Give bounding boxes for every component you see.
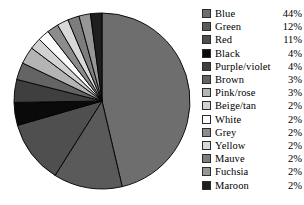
legend-item-label: Beige/tan — [215, 100, 278, 111]
legend-item-value: 2% — [278, 100, 302, 111]
legend-swatch-icon — [202, 141, 211, 150]
legend-swatch-icon — [202, 181, 211, 190]
legend-item-label: Fuchsia — [215, 166, 278, 177]
legend-swatch-icon — [202, 88, 211, 97]
legend-item-label: Blue — [215, 8, 278, 19]
legend-item[interactable]: Blue44% — [202, 7, 302, 20]
legend-item[interactable]: Green12% — [202, 20, 302, 33]
legend-item-value: 2% — [278, 114, 302, 125]
legend-swatch-icon — [202, 128, 211, 137]
legend-item-label: Maroon — [215, 180, 278, 191]
legend-item[interactable]: Beige/tan2% — [202, 99, 302, 112]
legend-item-label: Brown — [215, 74, 278, 85]
legend-item-value: 2% — [278, 127, 302, 138]
legend-item-label: Green — [215, 21, 278, 32]
legend-swatch-icon — [202, 115, 211, 124]
legend-item[interactable]: Pink/rose3% — [202, 86, 302, 99]
legend-item[interactable]: Red11% — [202, 33, 302, 46]
legend-item[interactable]: Grey2% — [202, 126, 302, 139]
legend-item[interactable]: Yellow2% — [202, 139, 302, 152]
legend-item-label: Red — [215, 34, 278, 45]
legend-item-value: 2% — [278, 140, 302, 151]
legend-item-label: White — [215, 114, 278, 125]
legend-swatch-icon — [202, 9, 211, 18]
legend-item-label: Mauve — [215, 153, 278, 164]
legend-item-value: 2% — [278, 153, 302, 164]
legend-item-label: Pink/rose — [215, 87, 278, 98]
pie-chart-area — [0, 0, 200, 205]
legend-item-value: 3% — [278, 74, 302, 85]
legend-swatch-icon — [202, 49, 211, 58]
legend-item[interactable]: Brown3% — [202, 73, 302, 86]
legend-item-value: 3% — [278, 87, 302, 98]
legend: Blue44%Green12%Red11%Black4%Purple/viole… — [202, 7, 302, 192]
legend-item-value: 12% — [278, 21, 302, 32]
legend-swatch-icon — [202, 167, 211, 176]
chart-container: Blue44%Green12%Red11%Black4%Purple/viole… — [0, 0, 304, 205]
legend-item-label: Yellow — [215, 140, 278, 151]
legend-item[interactable]: White2% — [202, 113, 302, 126]
legend-item[interactable]: Purple/violet4% — [202, 60, 302, 73]
legend-item[interactable]: Fuchsia2% — [202, 165, 302, 178]
legend-item-value: 2% — [278, 180, 302, 191]
legend-item-label: Grey — [215, 127, 278, 138]
legend-item[interactable]: Mauve2% — [202, 152, 302, 165]
legend-item-label: Purple/violet — [215, 61, 278, 72]
legend-swatch-icon — [202, 35, 211, 44]
legend-item-label: Black — [215, 48, 278, 59]
pie-chart-svg — [0, 0, 200, 205]
legend-item-value: 11% — [278, 34, 302, 45]
legend-swatch-icon — [202, 62, 211, 71]
legend-item-value: 2% — [278, 166, 302, 177]
pie-slice-group — [14, 13, 190, 189]
legend-item[interactable]: Black4% — [202, 47, 302, 60]
legend-swatch-icon — [202, 101, 211, 110]
legend-swatch-icon — [202, 154, 211, 163]
legend-item-value: 4% — [278, 48, 302, 59]
legend-swatch-icon — [202, 75, 211, 84]
legend-item-value: 44% — [278, 8, 302, 19]
legend-item[interactable]: Maroon2% — [202, 178, 302, 191]
legend-swatch-icon — [202, 22, 211, 31]
legend-item-value: 4% — [278, 61, 302, 72]
